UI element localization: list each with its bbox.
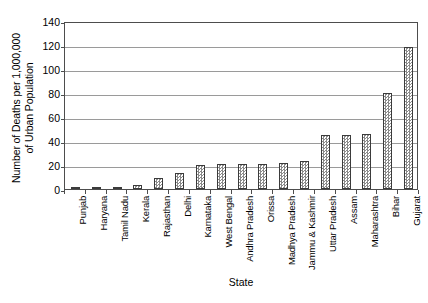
- x-axis-tick-label: Rajasthan: [162, 196, 172, 270]
- y-axis-tick-label: 100: [30, 65, 60, 75]
- x-axis-tick-label: West Bengal: [224, 196, 234, 270]
- x-axis-tick-label: Punjab: [78, 196, 88, 270]
- y-axis-tick-label: 20: [30, 161, 60, 171]
- x-axis-tick-label: Uttar Pradesh: [328, 196, 338, 270]
- bar: [113, 187, 122, 189]
- y-axis-tick-mark: [61, 119, 65, 120]
- x-axis-tick-label: Madhya Pradesh: [287, 196, 297, 270]
- y-axis-tick-label: 60: [30, 113, 60, 123]
- bar: [217, 164, 226, 189]
- bar: [238, 164, 247, 189]
- bar: [321, 135, 330, 189]
- x-axis-tick-mark: [85, 190, 86, 194]
- x-axis-tick-mark: [189, 190, 190, 194]
- plot-area: [64, 22, 418, 190]
- x-axis-tick-label: Delhi: [183, 196, 193, 270]
- bar: [92, 187, 101, 189]
- x-axis-tick-mark: [335, 190, 336, 194]
- y-axis-tick-label: 40: [30, 137, 60, 147]
- bar: [71, 187, 80, 189]
- x-axis-tick-mark: [418, 190, 419, 194]
- x-axis-tick-mark: [64, 190, 65, 194]
- x-axis-tick-mark: [314, 190, 315, 194]
- y-axis-tick-label: 0: [30, 185, 60, 195]
- x-axis-tick-label: Andhra Pradesh: [245, 196, 255, 270]
- bar: [362, 134, 371, 189]
- x-axis-tick-label: Karnataka: [203, 196, 213, 270]
- x-axis-tick-label: Haryana: [99, 196, 109, 270]
- bar: [383, 93, 392, 189]
- y-axis-tick-labels: 140120100806040200: [30, 22, 60, 190]
- bar: [404, 47, 413, 189]
- bar: [300, 161, 309, 189]
- x-axis-tick-label: Kerala: [141, 196, 151, 270]
- x-axis-tick-mark: [126, 190, 127, 194]
- y-axis-tick-mark: [61, 143, 65, 144]
- bar: [154, 178, 163, 189]
- x-axis-tick-mark: [168, 190, 169, 194]
- bar: [279, 163, 288, 189]
- x-axis-tick-labels: PunjabHaryanaTamil NaduKeralaRajasthanDe…: [64, 196, 418, 270]
- bar: [133, 185, 142, 189]
- x-axis-tick-label: Gujarat: [412, 196, 422, 270]
- bar: [175, 173, 184, 189]
- x-axis-tick-mark: [397, 190, 398, 194]
- x-axis-tick-label: Bihar: [391, 196, 401, 270]
- x-axis-tick-mark: [106, 190, 107, 194]
- bars-group: [65, 23, 417, 189]
- x-axis-tick-mark: [231, 190, 232, 194]
- x-axis-tick-mark: [251, 190, 252, 194]
- x-axis-tick-mark: [272, 190, 273, 194]
- y-axis-tick-mark: [61, 71, 65, 72]
- x-axis-tick-label: Jammu & Kashmir: [307, 196, 317, 270]
- x-axis-tick-label: Assam: [349, 196, 359, 270]
- bar: [342, 135, 351, 189]
- y-axis-tick-mark: [61, 23, 65, 24]
- x-axis-tick-mark: [210, 190, 211, 194]
- x-axis-tick-mark: [356, 190, 357, 194]
- x-axis-tick-mark: [293, 190, 294, 194]
- bar-chart: Number of Deaths per 1,000,000 of Urban …: [0, 0, 428, 303]
- x-axis-tick-marks: [64, 190, 418, 195]
- y-axis-tick-mark: [61, 95, 65, 96]
- y-axis-tick-mark: [61, 167, 65, 168]
- x-axis-tick-label: Tamil Nadu: [120, 196, 130, 270]
- y-axis-tick-mark: [61, 47, 65, 48]
- x-axis-tick-mark: [376, 190, 377, 194]
- y-axis-tick-label: 120: [30, 41, 60, 51]
- y-axis-tick-label: 80: [30, 89, 60, 99]
- bar: [258, 164, 267, 189]
- x-axis-tick-mark: [147, 190, 148, 194]
- y-axis-tick-label: 140: [30, 17, 60, 27]
- x-axis-title: State: [64, 276, 418, 288]
- x-axis-tick-label: Orissa: [266, 196, 276, 270]
- bar: [196, 165, 205, 189]
- x-axis-tick-label: Maharashtra: [370, 196, 380, 270]
